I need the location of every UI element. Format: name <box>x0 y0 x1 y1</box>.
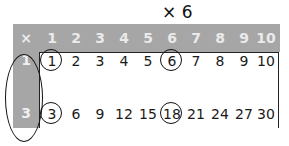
header-col-1: 1 <box>40 30 64 46</box>
header-col-4: 4 <box>112 30 136 46</box>
cell-r1-c5: 5 <box>136 53 160 69</box>
header-col-8: 8 <box>208 30 232 46</box>
circle-annotation-r3-c1 <box>40 102 62 124</box>
cell-r3-c2: 6 <box>64 106 88 122</box>
header-col-5: 5 <box>136 30 160 46</box>
header-col-7: 7 <box>184 30 208 46</box>
header-col-9: 9 <box>232 30 256 46</box>
header-col-3: 3 <box>88 30 112 46</box>
cell-r3-c7: 21 <box>184 106 208 122</box>
multiplier-title: × 6 <box>162 2 192 22</box>
cell-r1-c9: 9 <box>232 53 256 69</box>
oval-annotation-row-labels <box>5 54 43 142</box>
header-col-6: 6 <box>160 30 184 46</box>
circle-annotation-r3-c6 <box>160 102 182 124</box>
cell-r1-c2: 2 <box>64 53 88 69</box>
cell-r1-c8: 8 <box>208 53 232 69</box>
cell-r1-c10: 10 <box>254 53 278 69</box>
cell-r1-c3: 3 <box>88 53 112 69</box>
cell-r3-c4: 12 <box>112 106 136 122</box>
circle-annotation-r1-c6 <box>160 49 182 71</box>
cell-r3-c10: 30 <box>254 106 278 122</box>
cell-r1-c4: 4 <box>112 53 136 69</box>
header-col-10: 10 <box>254 30 278 46</box>
header-col-2: 2 <box>64 30 88 46</box>
cell-r3-c3: 9 <box>88 106 112 122</box>
cell-r1-c7: 7 <box>184 53 208 69</box>
cell-r3-c9: 27 <box>232 106 256 122</box>
circle-annotation-r1-c1 <box>40 49 62 71</box>
header-corner-times: × <box>14 30 38 46</box>
cell-r3-c8: 24 <box>208 106 232 122</box>
cell-r3-c5: 15 <box>136 106 160 122</box>
